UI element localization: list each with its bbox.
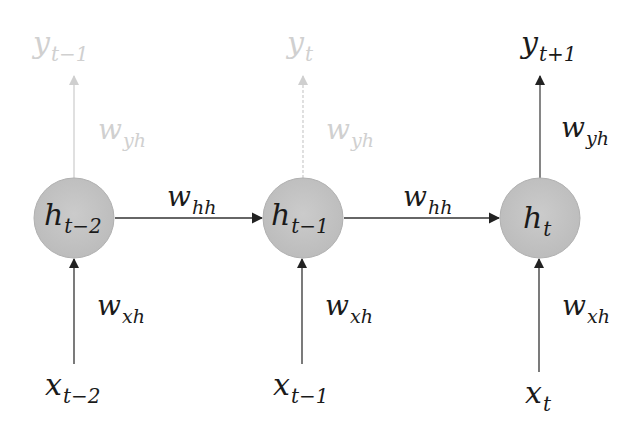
weight-hh-label-2: whh bbox=[403, 183, 452, 211]
weight-hh-label-1: whh bbox=[167, 183, 216, 211]
weight-xh-label-1: wxh bbox=[97, 292, 145, 320]
weight-xh-label-2: wxh bbox=[325, 292, 373, 320]
output-label-1: yt−1 bbox=[33, 28, 88, 58]
weight-yh-label-3: wyh bbox=[561, 114, 609, 142]
rnn-diagram: yt−1 yt yt+1 wyh wyh wyh whh whh ht−2 ht… bbox=[0, 0, 641, 431]
weight-xh-label-3: wxh bbox=[562, 292, 610, 320]
output-label-2: yt bbox=[287, 28, 313, 58]
input-label-3: xt bbox=[525, 378, 551, 408]
input-label-1: xt−2 bbox=[45, 370, 100, 400]
hidden-node-label-2: ht−1 bbox=[271, 200, 329, 230]
hidden-node-label-1: ht−2 bbox=[44, 200, 102, 230]
weight-yh-label-2: wyh bbox=[326, 116, 374, 144]
input-label-2: xt−1 bbox=[273, 370, 328, 400]
output-label-3: yt+1 bbox=[521, 28, 576, 58]
weight-yh-label-1: wyh bbox=[98, 116, 146, 144]
hidden-node-label-3: ht bbox=[523, 203, 551, 233]
